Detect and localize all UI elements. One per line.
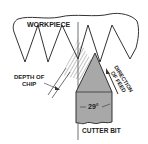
feed-arrowhead bbox=[106, 68, 110, 74]
workpiece-label: WORKPIECE bbox=[27, 21, 71, 28]
angle-label: 29° bbox=[88, 103, 99, 110]
cutter-bit-label: CUTTER BIT bbox=[82, 127, 121, 134]
thread-cutting-diagram: WORKPIECE DEPTH OF CHIP DIRECTION OF FEE… bbox=[0, 0, 148, 144]
depth-of-chip-label-2: CHIP bbox=[22, 81, 36, 87]
depth-of-chip-label-1: DEPTH OF bbox=[14, 74, 45, 80]
